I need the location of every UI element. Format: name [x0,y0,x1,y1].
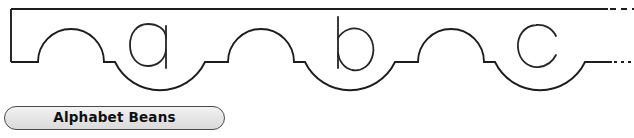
letter-a-glyph [130,24,166,68]
alphabet-beans-label-text: Alphabet Beans [53,111,175,125]
alphabet-beans-figure: Alphabet Beans [0,0,634,138]
alphabet-beans-label-pill[interactable]: Alphabet Beans [4,106,225,130]
letter-b-glyph [338,17,373,70]
letter-c-glyph [518,25,556,67]
